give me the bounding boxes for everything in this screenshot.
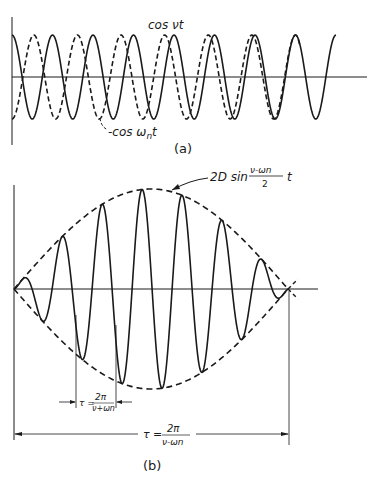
long-period-numerator: 2π (167, 423, 180, 434)
minus-cos-omega-n-t-label: -cos ωnt (108, 125, 158, 141)
envelope-label-numerator: ν-ωn (250, 165, 272, 175)
panel-a-caption: (a) (174, 141, 192, 156)
envelope-extension-up (288, 279, 298, 289)
panel-b: 2D sin ν-ωn 2 t τ = 2π ν+ωn τ = 2π ν-ωn … (14, 165, 318, 473)
envelope-label-arrowhead (172, 184, 180, 190)
panel-a: cos νt -cos ωnt (a) (12, 17, 367, 156)
short-period-arrowhead-right (116, 400, 122, 404)
envelope-label-prefix: 2D sin (210, 170, 248, 184)
envelope-extension-down (288, 289, 298, 299)
long-period-arrowhead-left (14, 432, 22, 436)
panel-b-caption: (b) (143, 458, 161, 473)
cos-nu-t-label: cos νt (148, 18, 185, 32)
envelope-label-denominator: 2 (262, 179, 268, 189)
long-period-label: τ = (143, 428, 162, 441)
envelope-label-suffix: t (287, 170, 293, 184)
short-period-numerator: 2π (95, 392, 107, 402)
long-period-arrowhead-right (281, 432, 289, 436)
short-period-arrowhead-left (70, 400, 76, 404)
beat-phenomenon-figure: cos νt -cos ωnt (a) 2D sin ν-ωn 2 t τ = … (0, 0, 375, 481)
short-period-denominator: ν+ωn (92, 404, 115, 413)
long-period-denominator: ν-ωn (162, 437, 184, 447)
lower-envelope-curve (14, 289, 288, 389)
minus-cos-label-leader (100, 118, 108, 130)
